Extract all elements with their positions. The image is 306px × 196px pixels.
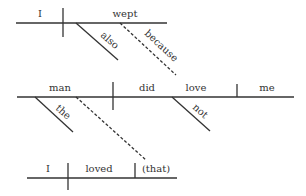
subject-i: I	[38, 8, 42, 19]
aux-did: did	[139, 82, 156, 93]
subject-man: man	[49, 82, 71, 93]
clause-3: I loved (that)	[27, 163, 177, 190]
verb-wept: wept	[113, 8, 138, 19]
verb-love: love	[186, 82, 207, 93]
object-me: me	[259, 82, 274, 93]
modifier-not: not	[191, 101, 211, 120]
modifier-also: also	[99, 29, 122, 51]
object-that: (that)	[142, 163, 170, 174]
verb-loved: loved	[85, 163, 113, 174]
subject-i-2: I	[46, 163, 50, 174]
clause-2: man did love me the not	[17, 82, 294, 160]
sentence-diagram: I wept also because man did love me the …	[0, 0, 306, 196]
connector-relative	[76, 97, 146, 160]
connector-because-label: because	[143, 27, 181, 63]
clause-1: I wept also because	[16, 8, 180, 75]
modifier-the: the	[54, 102, 74, 121]
